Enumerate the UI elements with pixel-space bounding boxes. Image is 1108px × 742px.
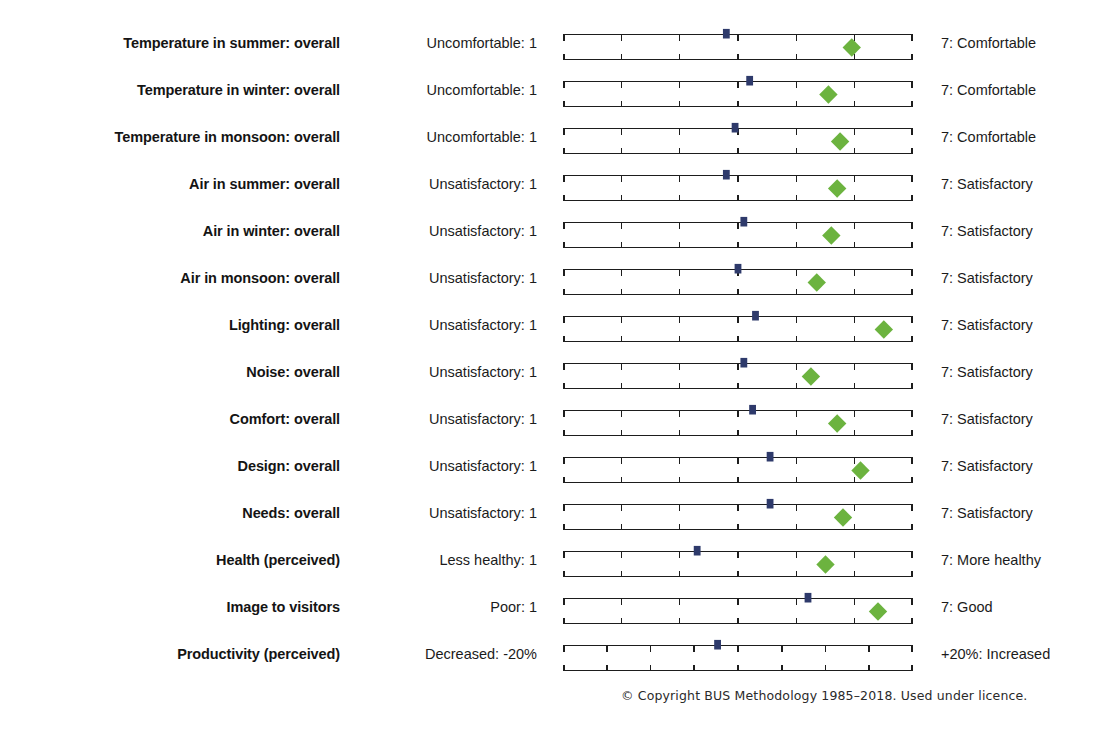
benchmark-marker	[735, 264, 742, 274]
row-high-anchor-label: +20%: Increased	[941, 646, 1106, 662]
score-marker	[808, 273, 826, 291]
chart-row: Health (perceived)Less healthy: 17: More…	[0, 543, 1108, 590]
row-attribute-label: Air in winter: overall	[10, 223, 340, 239]
row-high-anchor-label: 7: Satisfactory	[941, 223, 1106, 239]
row-high-anchor-label: 7: Comfortable	[941, 82, 1106, 98]
row-low-anchor-label: Decreased: -20%	[355, 646, 537, 662]
chart-row: Air in monsoon: overallUnsatisfactory: 1…	[0, 261, 1108, 308]
row-high-anchor-label: 7: Comfortable	[941, 35, 1106, 51]
row-low-anchor-label: Unsatisfactory: 1	[355, 364, 537, 380]
row-attribute-label: Temperature in monsoon: overall	[10, 129, 340, 145]
benchmark-marker	[694, 546, 701, 556]
benchmark-marker	[767, 499, 774, 509]
row-low-anchor-label: Unsatisfactory: 1	[355, 505, 537, 521]
score-marker	[822, 226, 840, 244]
benchmark-marker	[732, 123, 739, 133]
row-attribute-label: Noise: overall	[10, 364, 340, 380]
benchmark-marker	[746, 76, 753, 86]
row-high-anchor-label: 7: Satisfactory	[941, 458, 1106, 474]
chart-row: Noise: overallUnsatisfactory: 17: Satisf…	[0, 355, 1108, 402]
row-attribute-label: Temperature in summer: overall	[10, 35, 340, 51]
row-scale	[563, 355, 913, 395]
row-attribute-label: Temperature in winter: overall	[10, 82, 340, 98]
benchmark-marker	[714, 640, 721, 650]
row-scale	[563, 214, 913, 254]
chart-row: Temperature in monsoon: overallUncomfort…	[0, 120, 1108, 167]
score-marker	[828, 179, 846, 197]
chart-row: Air in summer: overallUnsatisfactory: 17…	[0, 167, 1108, 214]
copyright-notice: © Copyright BUS Methodology 1985–2018. U…	[621, 688, 1027, 703]
row-low-anchor-label: Unsatisfactory: 1	[355, 270, 537, 286]
benchmark-marker	[740, 358, 747, 368]
chart-row: Temperature in summer: overallUncomforta…	[0, 26, 1108, 73]
chart-row: Needs: overallUnsatisfactory: 17: Satisf…	[0, 496, 1108, 543]
row-low-anchor-label: Poor: 1	[355, 599, 537, 615]
row-high-anchor-label: 7: Satisfactory	[941, 317, 1106, 333]
row-high-anchor-label: 7: Satisfactory	[941, 411, 1106, 427]
row-low-anchor-label: Uncomfortable: 1	[355, 35, 537, 51]
row-attribute-label: Design: overall	[10, 458, 340, 474]
benchmark-marker	[767, 452, 774, 462]
benchmark-marker	[805, 593, 812, 603]
row-low-anchor-label: Unsatisfactory: 1	[355, 411, 537, 427]
row-scale	[563, 543, 913, 583]
row-low-anchor-label: Less healthy: 1	[355, 552, 537, 568]
score-marker	[843, 38, 861, 56]
chart-row: Image to visitorsPoor: 17: Good	[0, 590, 1108, 637]
row-scale	[563, 308, 913, 348]
score-marker	[819, 85, 837, 103]
row-attribute-label: Air in summer: overall	[10, 176, 340, 192]
row-attribute-label: Productivity (perceived)	[10, 646, 340, 662]
row-scale	[563, 590, 913, 630]
benchmark-marker	[740, 217, 747, 227]
benchmark-marker	[723, 29, 730, 39]
row-attribute-label: Comfort: overall	[10, 411, 340, 427]
chart-row: Design: overallUnsatisfactory: 17: Satis…	[0, 449, 1108, 496]
row-scale	[563, 120, 913, 160]
row-scale	[563, 261, 913, 301]
score-marker	[834, 508, 852, 526]
row-high-anchor-label: 7: Good	[941, 599, 1106, 615]
row-high-anchor-label: 7: Satisfactory	[941, 364, 1106, 380]
row-scale	[563, 496, 913, 536]
row-low-anchor-label: Uncomfortable: 1	[355, 82, 537, 98]
score-marker	[802, 367, 820, 385]
benchmark-marker	[752, 311, 759, 321]
row-high-anchor-label: 7: Satisfactory	[941, 270, 1106, 286]
chart-row: Air in winter: overallUnsatisfactory: 17…	[0, 214, 1108, 261]
row-low-anchor-label: Unsatisfactory: 1	[355, 317, 537, 333]
row-attribute-label: Health (perceived)	[10, 552, 340, 568]
score-marker	[875, 320, 893, 338]
row-attribute-label: Needs: overall	[10, 505, 340, 521]
row-high-anchor-label: 7: Satisfactory	[941, 505, 1106, 521]
benchmark-marker	[723, 170, 730, 180]
score-marker	[828, 414, 846, 432]
row-scale	[563, 449, 913, 489]
chart-row: Lighting: overallUnsatisfactory: 17: Sat…	[0, 308, 1108, 355]
bus-methodology-summary-chart: Temperature in summer: overallUncomforta…	[0, 0, 1108, 742]
row-scale	[563, 167, 913, 207]
score-marker	[831, 132, 849, 150]
row-attribute-label: Air in monsoon: overall	[10, 270, 340, 286]
score-marker	[816, 555, 834, 573]
row-high-anchor-label: 7: Satisfactory	[941, 176, 1106, 192]
chart-row: Temperature in winter: overallUncomforta…	[0, 73, 1108, 120]
row-low-anchor-label: Unsatisfactory: 1	[355, 223, 537, 239]
row-high-anchor-label: 7: Comfortable	[941, 129, 1106, 145]
row-scale	[563, 637, 913, 677]
row-scale	[563, 26, 913, 66]
row-high-anchor-label: 7: More healthy	[941, 552, 1106, 568]
chart-row: Comfort: overallUnsatisfactory: 17: Sati…	[0, 402, 1108, 449]
benchmark-marker	[749, 405, 756, 415]
row-low-anchor-label: Uncomfortable: 1	[355, 129, 537, 145]
score-marker	[869, 602, 887, 620]
row-attribute-label: Image to visitors	[10, 599, 340, 615]
row-low-anchor-label: Unsatisfactory: 1	[355, 458, 537, 474]
row-attribute-label: Lighting: overall	[10, 317, 340, 333]
row-scale	[563, 73, 913, 113]
row-scale	[563, 402, 913, 442]
row-low-anchor-label: Unsatisfactory: 1	[355, 176, 537, 192]
chart-row: Productivity (perceived)Decreased: -20%+…	[0, 637, 1108, 684]
